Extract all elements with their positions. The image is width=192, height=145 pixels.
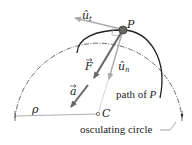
particle-p bbox=[119, 26, 127, 34]
right-angle-marker bbox=[112, 28, 119, 36]
circle-leader-line bbox=[160, 122, 176, 130]
center-c-point bbox=[96, 112, 99, 115]
label-f: F bbox=[84, 60, 93, 73]
circle-marker bbox=[181, 114, 183, 116]
force-arrow bbox=[94, 33, 121, 78]
osculating-circle-diagram: ût P F ûn a C ρ path of P osculating cir… bbox=[0, 0, 192, 145]
label-rho: ρ bbox=[31, 103, 39, 116]
radius-line bbox=[16, 114, 97, 116]
label-ut: ût bbox=[82, 9, 92, 23]
label-c: C bbox=[102, 107, 111, 120]
label-un: ûn bbox=[118, 60, 130, 74]
label-osculating-circle: osculating circle bbox=[80, 123, 153, 135]
label-a: a bbox=[70, 85, 77, 98]
label-p: P bbox=[126, 18, 135, 31]
label-path-of-p: path of P bbox=[116, 88, 157, 100]
